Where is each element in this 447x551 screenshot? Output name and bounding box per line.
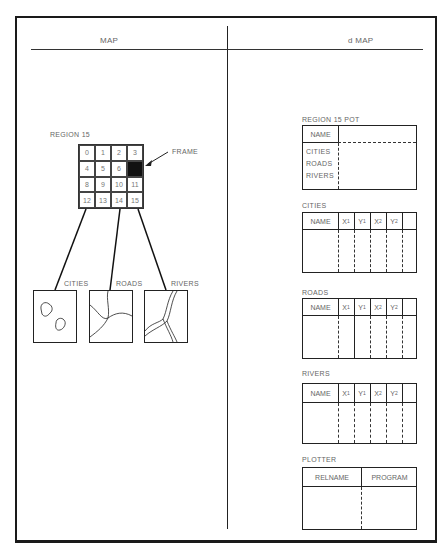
col-header: NAME — [303, 384, 338, 402]
name-label: NAME — [303, 126, 338, 142]
region-pot-title: REGION 15 POT — [302, 116, 360, 123]
region-pot-table: NAME CITIES ROADS RIVERS — [302, 125, 417, 190]
city-blobs-icon — [34, 291, 76, 342]
col-header: X1 — [338, 299, 354, 315]
col-header: Y2 — [386, 213, 402, 229]
col-header: Y1 — [354, 384, 370, 402]
pot-row-roads: ROADS — [306, 160, 332, 167]
roads-table: NAME X1 Y1 X2 Y2 — [302, 298, 417, 359]
col-header: Y2 — [386, 384, 402, 402]
col-header: NAME — [303, 213, 338, 229]
pot-row-cities: CITIES — [306, 148, 330, 155]
layer-label-roads: ROADS — [116, 280, 142, 287]
road-lines-icon — [90, 291, 132, 342]
col-header: PROGRAM — [361, 468, 418, 486]
dashed-separator — [338, 143, 339, 189]
table-header: RELNAME PROGRAM — [303, 468, 416, 487]
plotter-table-title: PLOTTER — [302, 456, 336, 463]
col-header: X2 — [370, 384, 386, 402]
col-header: Y1 — [354, 299, 370, 315]
table-header: NAME X1 Y1 X2 Y2 — [303, 299, 416, 316]
name-cell: NAME — [303, 126, 339, 143]
rivers-table-title: RIVERS — [302, 370, 330, 377]
rivers-layer-box — [144, 290, 188, 343]
col-header: NAME — [303, 299, 338, 315]
roads-table-title: ROADS — [302, 289, 328, 296]
rivers-table: NAME X1 Y1 X2 Y2 — [302, 383, 417, 444]
cities-layer-box — [33, 290, 77, 343]
cities-table-title: CITIES — [302, 202, 326, 209]
col-header: X1 — [338, 384, 354, 402]
cities-table: NAME X1 Y1 X2 Y2 — [302, 212, 417, 273]
roads-layer-box — [89, 290, 133, 343]
river-lines-icon — [145, 291, 187, 342]
col-header: Y1 — [354, 213, 370, 229]
col-header: X2 — [370, 299, 386, 315]
col-header: X2 — [370, 213, 386, 229]
dashed-separator — [338, 142, 416, 143]
arrow-head-icon — [145, 160, 152, 166]
plotter-table: RELNAME PROGRAM — [302, 467, 417, 530]
table-header: NAME X1 Y1 X2 Y2 — [303, 384, 416, 403]
table-header: NAME X1 Y1 X2 Y2 — [303, 213, 416, 230]
layer-label-rivers: RIVERS — [171, 280, 199, 287]
col-header: RELNAME — [303, 468, 361, 486]
col-header: Y2 — [386, 299, 402, 315]
layer-label-cities: CITIES — [64, 280, 88, 287]
pot-row-rivers: RIVERS — [306, 172, 334, 179]
col-header: X1 — [338, 213, 354, 229]
